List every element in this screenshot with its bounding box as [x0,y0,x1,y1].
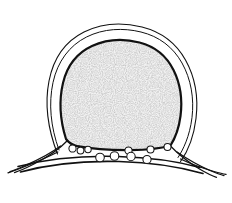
basal-cell-circle-0 [96,153,105,162]
basal-cell-circle-0 [69,145,76,152]
basal-cell-circle-5 [164,144,171,151]
basal-cell-circle-3 [143,155,151,163]
figure-canvas [0,0,232,203]
basal-cell-circle-1 [110,152,119,161]
basal-cell-circle-4 [147,146,154,153]
basal-cell-circle-1 [77,147,84,154]
line-drawing-svg [0,0,232,203]
basal-cell-circle-2 [85,146,91,152]
basal-cell-circle-2 [127,152,135,160]
